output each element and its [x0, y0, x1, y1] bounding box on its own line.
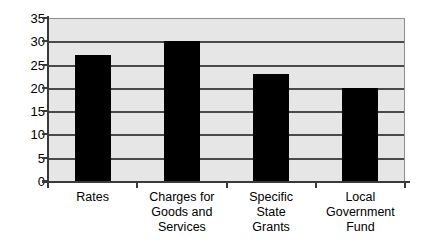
bar-chart-figure: 35 30 25 20 15 10 5 0 RatesCharges forGo… — [0, 0, 424, 245]
category-label-line: Goods and — [137, 205, 226, 220]
bar — [342, 88, 378, 181]
bar — [253, 74, 289, 181]
x-tick-mark — [47, 181, 49, 188]
category-label-line: Local — [316, 190, 405, 205]
category-label-line: Charges for — [137, 190, 226, 205]
category-label-line: Rates — [48, 190, 137, 205]
category-label-line: Services — [137, 220, 226, 235]
category-label: Charges forGoods andServices — [137, 190, 226, 235]
category-label: Rates — [48, 190, 137, 205]
y-tick-label: 35 — [2, 12, 45, 25]
bar — [164, 41, 200, 181]
category-label-line: Specific — [227, 190, 316, 205]
y-tick-label: 0 — [2, 175, 45, 188]
y-tick-label: 25 — [2, 59, 45, 72]
y-axis-line — [47, 16, 49, 183]
x-tick-mark — [136, 181, 138, 188]
plot-area — [48, 18, 405, 181]
category-label-line: Grants — [227, 220, 316, 235]
bars-layer — [48, 19, 404, 181]
bar — [75, 55, 111, 181]
x-tick-mark — [315, 181, 317, 188]
y-tick-label: 20 — [2, 82, 45, 95]
y-tick-label: 5 — [2, 152, 45, 165]
y-axis-tick-labels: 35 30 25 20 15 10 5 0 — [0, 0, 45, 245]
category-label-line: State — [227, 205, 316, 220]
category-label: SpecificStateGrants — [227, 190, 316, 235]
x-tick-mark — [404, 181, 406, 188]
y-tick-label: 15 — [2, 105, 45, 118]
x-tick-mark — [226, 181, 228, 188]
category-label-line: Fund — [316, 220, 405, 235]
x-axis-category-labels: RatesCharges forGoods andServicesSpecifi… — [48, 190, 405, 245]
category-label-line: Government — [316, 205, 405, 220]
y-tick-label: 30 — [2, 35, 45, 48]
y-tick-label: 10 — [2, 128, 45, 141]
category-label: LocalGovernmentFund — [316, 190, 405, 235]
